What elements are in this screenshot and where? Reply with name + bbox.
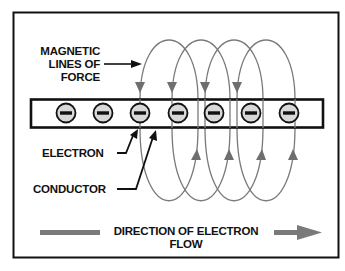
electron-flow-label: DIRECTION OF ELECTRON FLOW bbox=[100, 225, 272, 251]
electron-5 bbox=[205, 104, 224, 123]
electron-2 bbox=[94, 104, 113, 123]
label-line: DIRECTION OF ELECTRON bbox=[100, 225, 272, 238]
diagram-figure: MAGNETIC LINES OF FORCE ELECTRON CONDUCT… bbox=[0, 0, 345, 271]
electron-4 bbox=[169, 104, 188, 123]
electron-6 bbox=[242, 104, 261, 123]
label-line: LINES OF bbox=[20, 58, 100, 71]
electron-1 bbox=[57, 104, 76, 123]
label-line: FLOW bbox=[100, 238, 272, 251]
conductor-label: CONDUCTOR bbox=[33, 183, 106, 196]
magnetic-lines-label: MAGNETIC LINES OF FORCE bbox=[20, 45, 100, 84]
label-line: MAGNETIC bbox=[20, 45, 100, 58]
label-line: FORCE bbox=[20, 71, 100, 84]
electron-3 bbox=[131, 104, 150, 123]
electron-label: ELECTRON bbox=[42, 147, 104, 160]
flow-arrow-shaft bbox=[274, 230, 300, 235]
electron-7 bbox=[280, 104, 299, 123]
flow-arrow-tail bbox=[40, 230, 100, 235]
